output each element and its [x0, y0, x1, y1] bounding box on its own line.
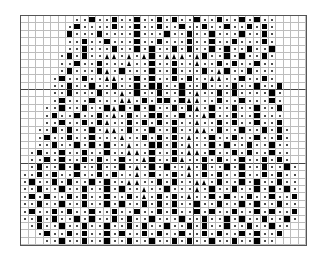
dot-symbol-icon [226, 85, 228, 87]
chart-cell [51, 216, 59, 223]
square-symbol-icon [224, 194, 230, 200]
chart-cell [141, 223, 149, 230]
dot-symbol-icon [99, 19, 101, 21]
chart-cell [299, 119, 307, 126]
dot-symbol-icon [31, 159, 33, 161]
chart-cell [291, 216, 299, 223]
chart-cell [201, 68, 209, 75]
dot-symbol-icon [234, 159, 236, 161]
dot-symbol-icon [189, 129, 191, 131]
square-symbol-icon [149, 76, 155, 82]
chart-cell [126, 16, 134, 23]
chart-cell [291, 142, 299, 149]
square-symbol-icon [37, 216, 43, 222]
dot-symbol-icon [241, 26, 243, 28]
dot-symbol-icon [241, 152, 243, 154]
chart-cell [231, 75, 239, 82]
dot-symbol-icon [234, 218, 236, 220]
dot-symbol-icon [99, 152, 101, 154]
square-symbol-icon [217, 172, 223, 178]
chart-cell [66, 119, 74, 126]
chart-cell [44, 186, 52, 193]
square-symbol-icon [104, 223, 110, 229]
square-symbol-icon [127, 216, 133, 222]
chart-cell [299, 16, 307, 23]
chart-cell [66, 201, 74, 208]
chart-cell [111, 53, 119, 60]
chart-cell [21, 171, 29, 178]
chart-cell [201, 142, 209, 149]
chart-cell [284, 179, 292, 186]
dot-symbol-icon [76, 122, 78, 124]
chart-cell [44, 230, 52, 237]
dot-symbol-icon [129, 188, 131, 190]
chart-cell [104, 193, 112, 200]
dot-symbol-icon [121, 63, 123, 65]
chart-cell [231, 23, 239, 30]
chart-cell [156, 97, 164, 104]
dot-symbol-icon [69, 122, 71, 124]
chart-cell [261, 112, 269, 119]
dot-symbol-icon [219, 218, 221, 220]
chart-cell [149, 31, 157, 38]
chart-cell [111, 60, 119, 67]
dot-symbol-icon [211, 233, 213, 235]
dot-symbol-icon [31, 188, 33, 190]
chart-cell [231, 186, 239, 193]
chart-cell [29, 179, 37, 186]
chart-cell [291, 16, 299, 23]
dot-symbol-icon [256, 48, 258, 50]
dot-symbol-icon [76, 240, 78, 242]
chart-cell [104, 68, 112, 75]
dot-symbol-icon [196, 144, 198, 146]
dot-symbol-icon [151, 203, 153, 205]
square-symbol-icon [97, 31, 103, 37]
chart-row [21, 83, 306, 90]
chart-cell [231, 230, 239, 237]
dot-symbol-icon [166, 19, 168, 21]
dot-symbol-icon [181, 152, 183, 154]
chart-cell [141, 127, 149, 134]
chart-cell [269, 105, 277, 112]
chart-cell [51, 97, 59, 104]
dot-symbol-icon [196, 233, 198, 235]
chart-cell [36, 223, 44, 230]
chart-cell [231, 68, 239, 75]
square-symbol-icon [262, 157, 268, 163]
chart-cell [246, 68, 254, 75]
square-symbol-icon [82, 53, 88, 59]
chart-cell [171, 105, 179, 112]
chart-cell [21, 216, 29, 223]
dot-symbol-icon [204, 78, 206, 80]
dot-symbol-icon [271, 137, 273, 139]
chart-cell [156, 53, 164, 60]
chart-cell [29, 97, 37, 104]
square-symbol-icon [224, 53, 230, 59]
chart-cell [149, 16, 157, 23]
square-symbol-icon [209, 39, 215, 45]
dot-symbol-icon [106, 166, 108, 168]
dot-symbol-icon [226, 203, 228, 205]
chart-cell [299, 193, 307, 200]
triangle-symbol-icon [105, 54, 109, 59]
chart-cell [89, 186, 97, 193]
chart-cell [126, 171, 134, 178]
chart-cell [171, 83, 179, 90]
dot-symbol-icon [196, 166, 198, 168]
chart-cell [134, 16, 142, 23]
chart-cell [186, 208, 194, 215]
chart-cell [284, 112, 292, 119]
square-symbol-icon [82, 201, 88, 207]
dot-symbol-icon [99, 107, 101, 109]
chart-cell [291, 68, 299, 75]
dot-symbol-icon [166, 203, 168, 205]
chart-cell [96, 142, 104, 149]
dot-symbol-icon [99, 240, 101, 242]
chart-cell [201, 149, 209, 156]
square-symbol-icon [247, 150, 253, 156]
dot-symbol-icon [211, 26, 213, 28]
chart-cell [209, 208, 217, 215]
dot-symbol-icon [24, 211, 26, 213]
dot-symbol-icon [24, 203, 26, 205]
chart-cell [141, 112, 149, 119]
